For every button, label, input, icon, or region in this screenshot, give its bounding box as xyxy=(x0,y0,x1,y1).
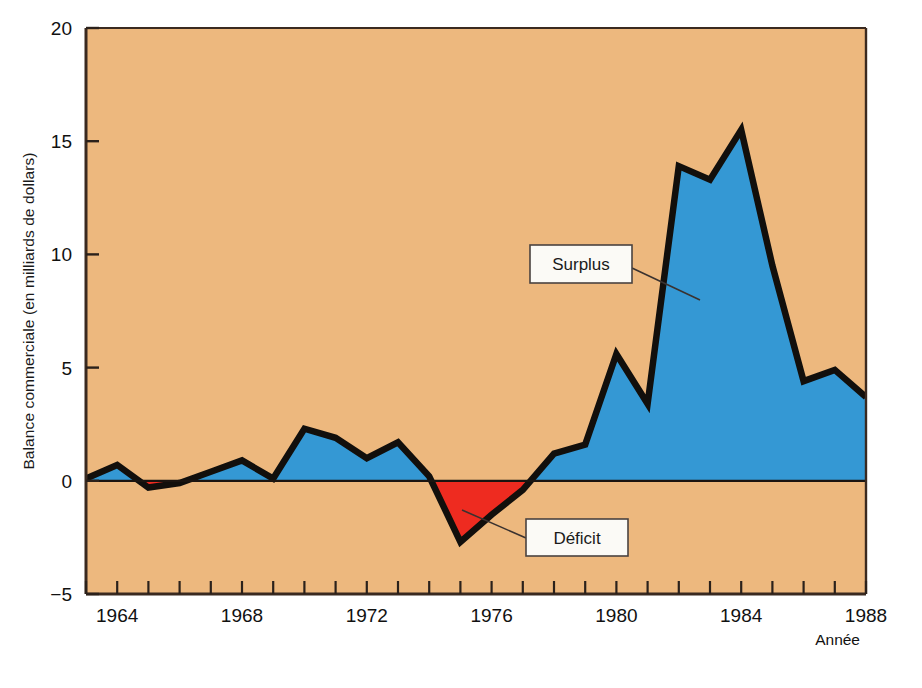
x-tick-label: 1972 xyxy=(346,605,388,626)
deficit-callout-label: Déficit xyxy=(553,529,601,548)
chart-page: −505101520 1964196819721976198019841988 … xyxy=(0,0,922,688)
y-tick-label: 10 xyxy=(51,244,72,265)
y-tick-label: 0 xyxy=(61,471,72,492)
x-tick-label: 1980 xyxy=(595,605,637,626)
x-tick-label: 1988 xyxy=(845,605,887,626)
surplus-callout-label: Surplus xyxy=(552,255,610,274)
chart-figure: −505101520 1964196819721976198019841988 … xyxy=(0,0,922,688)
y-tick-label: 20 xyxy=(51,18,72,39)
trade-balance-area-chart: −505101520 1964196819721976198019841988 … xyxy=(0,0,922,688)
y-axis-title: Balance commerciale (en milliards de dol… xyxy=(20,152,37,469)
y-tick-label: 5 xyxy=(61,358,72,379)
y-tick-label: −5 xyxy=(50,584,72,605)
x-tick-label: 1964 xyxy=(96,605,139,626)
x-tick-label: 1968 xyxy=(221,605,263,626)
y-tick-label: 15 xyxy=(51,131,72,152)
x-tick-label: 1984 xyxy=(720,605,763,626)
x-axis-title: Année xyxy=(815,631,860,648)
page-bottom-margin xyxy=(0,662,922,688)
x-tick-label: 1976 xyxy=(470,605,512,626)
